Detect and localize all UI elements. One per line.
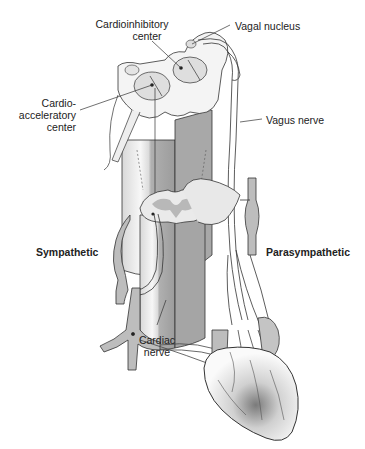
label-line: Cardioinhibitory	[72, 18, 192, 30]
label-sympathetic: Sympathetic	[36, 246, 98, 258]
label-line: nerve	[130, 346, 184, 358]
label-line: center	[72, 30, 192, 42]
label-cardiac-nerve: Cardiac nerve	[130, 334, 184, 358]
label-vagal-nucleus: Vagal nucleus	[235, 20, 300, 32]
label-vagus-nerve: Vagus nerve	[266, 114, 324, 126]
label-line: acceleratory	[8, 109, 76, 121]
label-parasympathetic: Parasympathetic	[266, 246, 350, 258]
diagram-canvas	[0, 0, 365, 449]
label-line: center	[8, 121, 76, 133]
label-cardioacceleratory-center: Cardio- acceleratory center	[8, 97, 76, 133]
label-cardioinhibitory-center: Cardioinhibitory center	[72, 18, 192, 42]
label-line: Cardiac	[130, 334, 184, 346]
heart	[204, 317, 298, 440]
label-line: Cardio-	[8, 97, 76, 109]
